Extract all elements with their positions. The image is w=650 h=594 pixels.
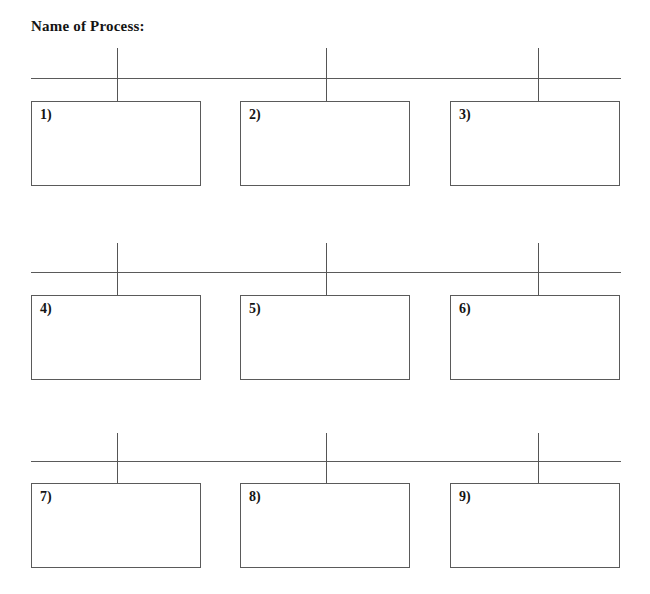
step-box[interactable]: 5): [240, 295, 410, 380]
step-box[interactable]: 2): [240, 101, 410, 186]
timeline-tick-mark: [117, 243, 118, 295]
step-box[interactable]: 7): [31, 483, 201, 568]
step-box[interactable]: 9): [450, 483, 620, 568]
step-number-label: 8): [249, 488, 261, 506]
page-title: Name of Process:: [31, 17, 145, 35]
step-box[interactable]: 4): [31, 295, 201, 380]
step-number-label: 9): [459, 488, 471, 506]
timeline-tick-mark: [538, 48, 539, 101]
timeline-tick-mark: [326, 433, 327, 483]
step-number-label: 7): [40, 488, 52, 506]
step-number-label: 4): [40, 300, 52, 318]
timeline-tick-mark: [538, 433, 539, 483]
timeline-tick-mark: [326, 243, 327, 295]
timeline-tick-mark: [326, 48, 327, 101]
step-number-label: 6): [459, 300, 471, 318]
step-number-label: 2): [249, 106, 261, 124]
step-number-label: 5): [249, 300, 261, 318]
step-box[interactable]: 1): [31, 101, 201, 186]
step-number-label: 1): [40, 106, 52, 124]
timeline-tick-mark: [538, 243, 539, 295]
timeline-tick-mark: [117, 433, 118, 483]
step-box[interactable]: 3): [450, 101, 620, 186]
timeline-tick-mark: [117, 48, 118, 101]
step-number-label: 3): [459, 106, 471, 124]
process-worksheet-page: Name of Process: 1)2)3)4)5)6)7)8)9): [0, 0, 650, 594]
step-box[interactable]: 8): [240, 483, 410, 568]
step-box[interactable]: 6): [450, 295, 620, 380]
